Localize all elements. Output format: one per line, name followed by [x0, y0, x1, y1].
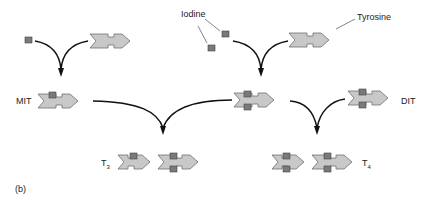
tyrosine-label: Tyrosine: [357, 12, 391, 22]
arrowhead-icon: [58, 68, 64, 77]
reaction-arrow-t3-b: [163, 100, 232, 128]
iodine-atom: [222, 31, 229, 37]
arrowhead-icon: [258, 68, 264, 77]
reaction-arrow-left-a: [35, 41, 61, 70]
reaction-arrow-left-b: [61, 41, 88, 70]
iodine-label: Iodine: [181, 9, 206, 19]
t3-molecule: [118, 153, 198, 172]
iodine-atom: [25, 37, 32, 43]
reaction-arrow-right-b: [261, 41, 288, 70]
mit-label: MIT: [16, 96, 32, 106]
dit-molecule-center: [234, 91, 274, 110]
t4-label: T4: [362, 158, 371, 170]
thyroid-hormone-synthesis-diagram: [0, 0, 433, 201]
reaction-arrow-t4-b: [317, 99, 345, 128]
dit-molecule-right: [348, 89, 388, 108]
panel-label: (b): [15, 184, 26, 194]
mit-molecule: [38, 92, 78, 108]
reaction-arrow-right-a: [233, 41, 261, 70]
t3-label: T3: [101, 158, 110, 170]
tyrosine-molecule: [289, 33, 329, 47]
t4-molecule: [272, 153, 352, 172]
iodine-atom: [208, 45, 215, 51]
reaction-arrow-t3-a: [93, 101, 163, 128]
tyrosine-molecule: [90, 34, 130, 48]
dit-label: DIT: [401, 96, 416, 106]
arrowhead-icon: [314, 126, 320, 135]
reaction-arrow-t4-a: [290, 101, 317, 128]
arrowhead-icon: [160, 126, 166, 135]
